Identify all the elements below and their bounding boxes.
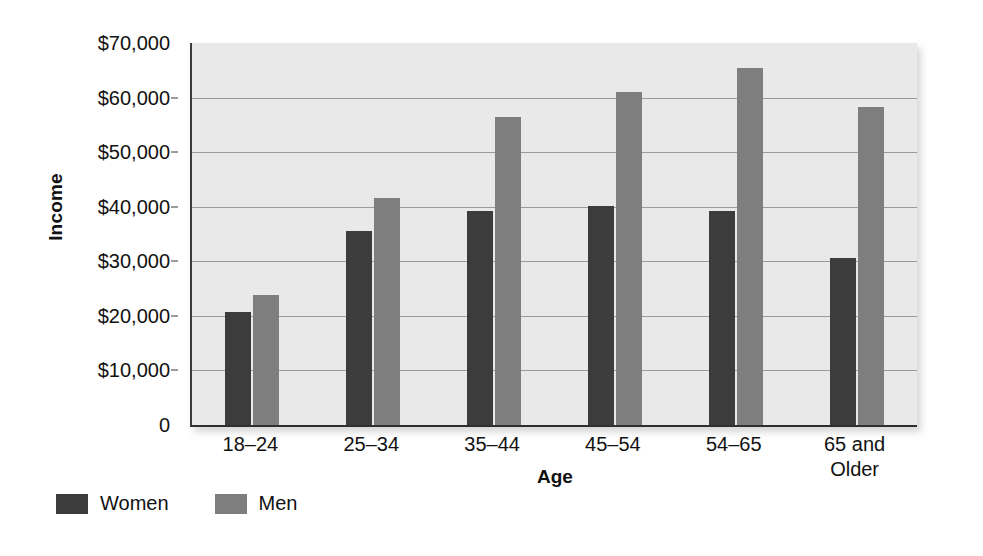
y-tick-label: $60,000 <box>30 86 170 109</box>
x-axis-title: Age <box>470 466 640 488</box>
bar-men <box>495 117 521 425</box>
y-tick-mark <box>171 315 178 316</box>
y-tick-label: $70,000 <box>30 32 170 55</box>
chart-legend: WomenMen <box>56 492 297 515</box>
bar-group <box>225 43 279 425</box>
bar-women <box>709 211 735 425</box>
bar-group <box>709 43 763 425</box>
bar-group <box>346 43 400 425</box>
y-tick-mark <box>171 261 178 262</box>
legend-label: Men <box>259 492 298 515</box>
y-tick-mark <box>171 152 178 153</box>
x-tick-label: 65 and Older <box>785 432 925 482</box>
y-tick-label: 0 <box>30 414 170 437</box>
x-tick-label: 18–24 <box>180 432 320 457</box>
legend-item-men[interactable]: Men <box>215 492 298 515</box>
legend-swatch-icon <box>215 494 247 514</box>
bar-men <box>858 107 884 425</box>
y-tick-label: $10,000 <box>30 359 170 382</box>
x-tick-label: 35–44 <box>422 432 562 457</box>
y-tick-label: $30,000 <box>30 250 170 273</box>
legend-item-women[interactable]: Women <box>56 492 169 515</box>
bar-men <box>374 198 400 425</box>
bars-layer <box>192 43 917 425</box>
bar-group <box>588 43 642 425</box>
y-tick-label: $20,000 <box>30 304 170 327</box>
y-tick-label: $50,000 <box>30 141 170 164</box>
plot-area <box>190 43 917 427</box>
bar-women <box>467 211 493 425</box>
y-tick-mark <box>171 206 178 207</box>
legend-swatch-icon <box>56 494 88 514</box>
bar-women <box>225 312 251 425</box>
x-tick-label: 45–54 <box>543 432 683 457</box>
bar-men <box>737 68 763 425</box>
y-tick-mark <box>171 370 178 371</box>
legend-label: Women <box>100 492 169 515</box>
y-tick-label: $40,000 <box>30 195 170 218</box>
y-tick-mark <box>171 97 178 98</box>
bar-men <box>616 92 642 425</box>
y-axis-tick-labels: 0$10,000$20,000$30,000$40,000$50,000$60,… <box>34 43 178 425</box>
bar-men <box>253 295 279 425</box>
x-tick-label: 25–34 <box>301 432 441 457</box>
bar-group <box>830 43 884 425</box>
bar-women <box>588 206 614 425</box>
x-tick-label: 54–65 <box>664 432 804 457</box>
income-by-age-bar-chart: Income 0$10,000$20,000$30,000$40,000$50,… <box>0 0 983 556</box>
bar-women <box>346 231 372 425</box>
bar-women <box>830 258 856 425</box>
bar-group <box>467 43 521 425</box>
